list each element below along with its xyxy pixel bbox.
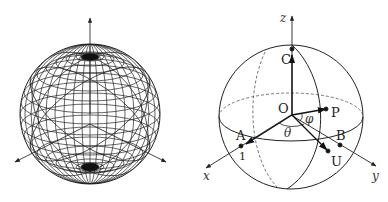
label-theta: θ <box>284 126 292 140</box>
label-P: P <box>331 105 340 120</box>
phi-arc <box>300 114 302 121</box>
point-A <box>239 144 243 148</box>
point-B <box>338 143 342 147</box>
label-B: B <box>336 128 346 143</box>
meridian-back <box>253 52 278 188</box>
x-axis-label: x <box>203 169 210 183</box>
label-phi: φ <box>305 112 314 126</box>
point-U <box>326 149 330 153</box>
wireframe-sphere <box>8 18 172 198</box>
z-axis-label: z <box>279 11 287 25</box>
point-P <box>324 107 328 111</box>
label-C: C <box>281 52 291 67</box>
bloch-sphere <box>206 16 376 189</box>
y-axis-label: y <box>371 169 379 183</box>
label-unit: 1 <box>239 150 246 163</box>
point-C <box>290 47 294 51</box>
north-pole-spot <box>81 54 99 61</box>
equator-back <box>219 93 363 117</box>
label-O: O <box>278 101 289 116</box>
label-U: U <box>331 154 342 169</box>
south-pole-spot <box>81 163 99 171</box>
figure-canvas: z x y C O P A B U 1 θ φ <box>0 0 388 202</box>
label-A: A <box>235 128 246 143</box>
